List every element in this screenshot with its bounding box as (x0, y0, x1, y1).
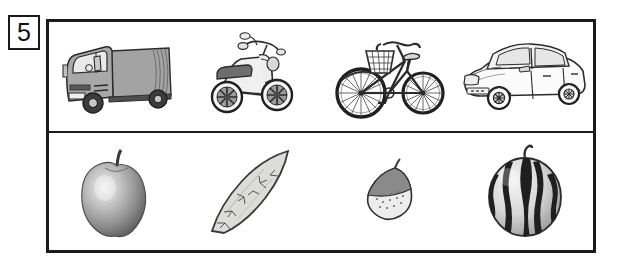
sweet-potato-icon (198, 145, 308, 239)
question-number-text: 5 (17, 20, 31, 45)
apple-icon (74, 146, 160, 238)
cell-chestnut (321, 133, 457, 250)
cell-truck (49, 22, 185, 131)
cell-car (457, 22, 593, 131)
cell-bicycle (321, 22, 457, 131)
cell-sweet-potato (185, 133, 321, 250)
scooter-icon (201, 33, 305, 121)
truck-icon (53, 35, 181, 119)
row-produce (49, 133, 593, 250)
bicycle-icon (333, 31, 445, 123)
watermelon-icon (478, 143, 572, 241)
cell-scooter (185, 22, 321, 131)
cell-apple (49, 133, 185, 250)
illustration-panel (46, 19, 596, 253)
chestnut-icon (358, 157, 420, 227)
car-icon (459, 38, 591, 116)
row-vehicles (49, 22, 593, 133)
question-number-box: 5 (8, 15, 40, 50)
cell-watermelon (457, 133, 593, 250)
